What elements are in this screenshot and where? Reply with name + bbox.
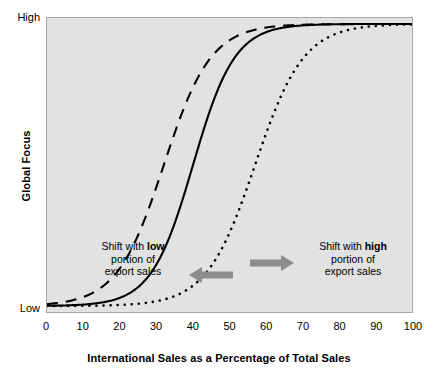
annotation-low-line1-prefix: Shift with — [101, 240, 147, 252]
x-tick-label-70: 70 — [283, 320, 323, 332]
x-tick-label-60: 60 — [246, 320, 286, 332]
annotation-high-line1: Shift with high — [297, 240, 409, 253]
x-axis-tick-row: 0102030405060708090100 — [46, 320, 413, 336]
arrow-right-icon — [250, 254, 294, 272]
arrow-left-icon — [189, 266, 233, 284]
annotation-high-line1-prefix: Shift with — [319, 240, 365, 252]
x-tick-label-30: 30 — [136, 320, 176, 332]
x-tick-label-40: 40 — [173, 320, 213, 332]
annotation-high-keyword: high — [365, 240, 387, 252]
x-tick-label-50: 50 — [210, 320, 250, 332]
chart-figure: Global Focus High Low Shift with low por… — [0, 0, 438, 376]
x-tick-label-100: 100 — [393, 320, 433, 332]
annotation-low-line1: Shift with low — [77, 240, 189, 253]
annotation-low-line2: portion of — [77, 253, 189, 266]
annotation-low-keyword: low — [147, 240, 165, 252]
annotation-high-line2: portion of — [297, 253, 409, 266]
x-tick-label-10: 10 — [63, 320, 103, 332]
x-tick-label-80: 80 — [320, 320, 360, 332]
y-axis-title: Global Focus — [20, 96, 32, 236]
annotation-low-export-sales: Shift with low portion of export sales — [77, 240, 189, 278]
x-tick-label-20: 20 — [99, 320, 139, 332]
annotation-high-line3: export sales — [297, 265, 409, 278]
x-axis-title: International Sales as a Percentage of T… — [0, 352, 438, 364]
annotation-high-export-sales: Shift with high portion of export sales — [297, 240, 409, 278]
annotation-low-line3: export sales — [77, 265, 189, 278]
y-tick-label-low: Low — [0, 302, 40, 314]
x-tick-label-0: 0 — [26, 320, 66, 332]
y-tick-label-high: High — [0, 11, 40, 23]
x-tick-label-90: 90 — [356, 320, 396, 332]
plot-area: Shift with low portion of export sales S… — [46, 17, 413, 313]
